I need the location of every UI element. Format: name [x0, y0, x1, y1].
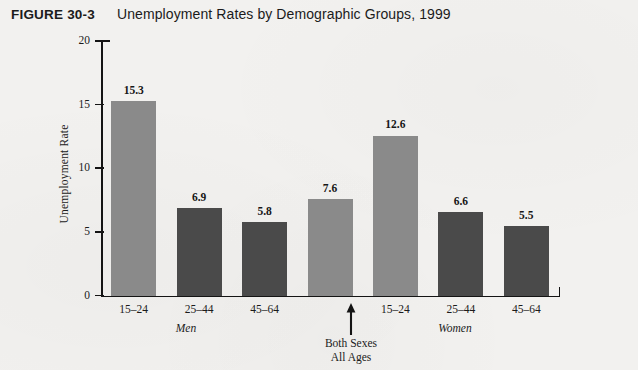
y-tick-label: 5	[50, 225, 90, 237]
bar-chart-plot: Unemployment Rate 05101520 15.36.95.87.6…	[0, 0, 638, 370]
annotation-line-2: All Ages	[276, 351, 426, 365]
bar-value-label: 7.6	[295, 182, 365, 194]
y-tick-label: 20	[50, 34, 90, 46]
y-tick-mark	[95, 295, 104, 297]
bar-value-label: 5.5	[491, 209, 561, 221]
y-tick-label: 10	[50, 161, 90, 173]
annotation-both-sexes: Both Sexes All Ages	[276, 337, 426, 364]
y-tick-mark	[95, 231, 104, 233]
y-tick-label: 0	[50, 289, 90, 301]
group-label-men: Men	[126, 322, 246, 334]
bar	[373, 136, 418, 296]
bar	[111, 101, 156, 296]
bar	[177, 208, 222, 296]
x-axis-label: 45–64	[486, 303, 566, 315]
x-axis-end-cap	[559, 287, 561, 296]
y-tick-mark	[95, 167, 104, 169]
annotation-line-1: Both Sexes	[276, 337, 426, 351]
bar	[308, 199, 353, 296]
bar	[242, 222, 287, 296]
bar	[504, 226, 549, 296]
bar-value-label: 6.6	[426, 195, 496, 207]
figure-number: FIGURE 30-3	[11, 7, 95, 22]
bar-value-label: 12.6	[360, 118, 430, 130]
figure-caption: FIGURE 30-3 Unemployment Rates by Demogr…	[11, 6, 451, 22]
y-tick-mark	[95, 40, 104, 42]
y-tick-mark	[95, 104, 104, 106]
y-tick-label: 15	[50, 98, 90, 110]
up-arrow-icon	[345, 303, 357, 335]
bar-value-label: 15.3	[99, 84, 169, 96]
group-label-women: Women	[395, 322, 515, 334]
figure-container: FIGURE 30-3 Unemployment Rates by Demogr…	[0, 0, 638, 370]
bar	[438, 212, 483, 296]
bar-value-label: 6.9	[164, 191, 234, 203]
bar-value-label: 5.8	[230, 205, 300, 217]
figure-title: Unemployment Rates by Demographic Groups…	[117, 6, 451, 22]
x-axis-label: 45–64	[225, 303, 305, 315]
